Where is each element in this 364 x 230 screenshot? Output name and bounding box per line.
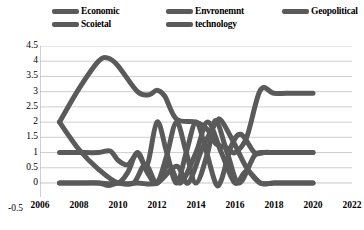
y-axis-tick-label: 1 bbox=[12, 148, 38, 158]
x-axis-tick-label: 2022 bbox=[335, 200, 364, 210]
x-axis-tick-label: 2006 bbox=[23, 200, 57, 210]
legend-line-swatch-icon bbox=[282, 9, 309, 14]
legend-item-geopolitical[interactable]: Geopolitical bbox=[282, 6, 358, 16]
legend-label: technology bbox=[195, 19, 237, 29]
x-axis-tick-label: 2020 bbox=[296, 200, 330, 210]
plot-svg bbox=[40, 46, 352, 198]
legend-label: Envronemnt bbox=[195, 6, 244, 16]
legend-line-swatch-icon bbox=[166, 22, 193, 27]
series-line-economic bbox=[60, 57, 314, 152]
legend-line-swatch-icon bbox=[52, 9, 79, 14]
y-axis-tick-label: 3.5 bbox=[12, 71, 38, 81]
chart-legend: Economic Scoietal Envronemnt technology … bbox=[0, 2, 364, 34]
x-axis-tick-label: 2016 bbox=[218, 200, 252, 210]
line-chart: Economic Scoietal Envronemnt technology … bbox=[0, 0, 364, 230]
legend-item-scoietal[interactable]: Scoietal bbox=[52, 19, 111, 29]
y-axis-tick-label: 4 bbox=[12, 56, 38, 66]
x-axis-tick-label: 2008 bbox=[62, 200, 96, 210]
legend-item-envronemnt[interactable]: Envronemnt bbox=[166, 6, 244, 16]
x-axis-tick-label: 2014 bbox=[179, 200, 213, 210]
y-axis-tick-label: 1.5 bbox=[12, 132, 38, 142]
y-axis-tick-label: 2 bbox=[12, 117, 38, 127]
y-axis-tick-label-negative: -0.5 bbox=[8, 203, 23, 213]
y-axis-tick-labels: 4.543.532.521.510.50 bbox=[6, 46, 38, 198]
x-axis-tick-labels: 200620082010201220142016201820202022 bbox=[40, 200, 352, 214]
plot-area bbox=[40, 46, 352, 198]
y-axis-tick-label: 0 bbox=[12, 178, 38, 188]
y-axis-tick-label: 0.5 bbox=[12, 163, 38, 173]
legend-item-economic[interactable]: Economic bbox=[52, 6, 120, 16]
legend-label: Scoietal bbox=[81, 19, 111, 29]
legend-label: Economic bbox=[81, 6, 120, 16]
y-axis-tick-label: 4.5 bbox=[12, 41, 38, 51]
legend-line-swatch-icon bbox=[52, 22, 79, 27]
legend-line-swatch-icon bbox=[166, 9, 193, 14]
legend-item-technology[interactable]: technology bbox=[166, 19, 237, 29]
x-axis-tick-label: 2010 bbox=[101, 200, 135, 210]
legend-label: Geopolitical bbox=[311, 6, 358, 16]
x-axis-tick-label: 2018 bbox=[257, 200, 291, 210]
x-axis-tick-label: 2012 bbox=[140, 200, 174, 210]
y-axis-tick-label: 2.5 bbox=[12, 102, 38, 112]
y-axis-tick-label: 3 bbox=[12, 87, 38, 97]
